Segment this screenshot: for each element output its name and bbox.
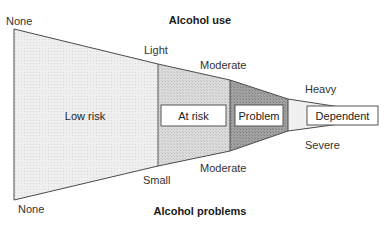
alcohol-problems-title: Alcohol problems <box>154 205 247 217</box>
use-level-moderate: Moderate <box>200 59 246 71</box>
alcohol-spectrum-diagram: Alcohol use Alcohol problems None Light … <box>0 0 392 226</box>
problem-level-moderate: Moderate <box>200 162 246 174</box>
alcohol-use-title: Alcohol use <box>169 14 231 26</box>
zone-label-dependent: Dependent <box>316 110 370 122</box>
use-level-light: Light <box>144 44 168 56</box>
zone-label-problem: Problem <box>239 110 280 122</box>
problem-level-severe: Severe <box>305 139 340 151</box>
use-level-none: None <box>6 15 32 27</box>
problem-level-small: Small <box>143 174 171 186</box>
problem-level-none: None <box>18 203 44 215</box>
zone-label-at-risk: At risk <box>178 110 209 122</box>
use-level-heavy: Heavy <box>305 83 337 95</box>
zone-label-low-risk: Low risk <box>65 110 106 122</box>
